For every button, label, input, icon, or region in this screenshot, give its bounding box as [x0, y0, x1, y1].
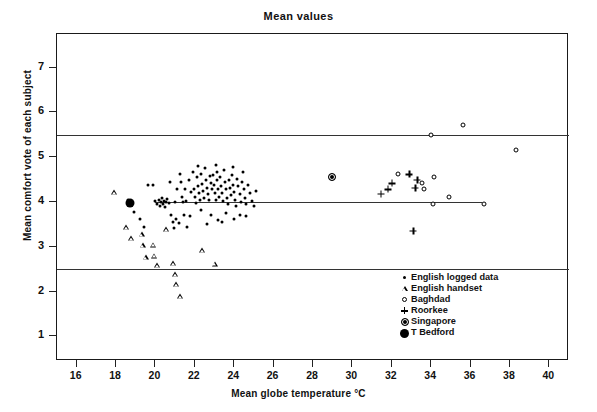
legend-item[interactable]: Singapore	[398, 316, 498, 327]
data-point-english-logged-data	[214, 198, 217, 201]
data-point-english-handset	[123, 225, 129, 230]
data-point-english-logged-data	[250, 200, 253, 203]
data-point-english-logged-data	[219, 176, 222, 179]
y-axis-tick-label: 1	[22, 328, 44, 340]
data-point-english-logged-data	[185, 225, 188, 228]
x-axis-tick-label: 38	[494, 369, 524, 381]
x-axis-tick-label: 36	[455, 369, 485, 381]
data-point-english-logged-data	[183, 213, 186, 216]
data-point-english-logged-data	[172, 221, 175, 224]
y-axis-tick	[49, 111, 56, 112]
y-axis-tick-label: 5	[22, 149, 44, 161]
data-point-english-logged-data	[239, 192, 242, 195]
data-point-english-handset	[143, 255, 149, 260]
x-axis-tick	[351, 360, 352, 367]
data-point-english-logged-data	[223, 168, 226, 171]
x-axis-tick-label: 28	[297, 369, 327, 381]
data-point-english-logged-data	[178, 222, 181, 225]
data-point-english-logged-data	[243, 188, 246, 191]
data-point-english-logged-data	[218, 195, 221, 198]
data-point-baghdad	[513, 148, 518, 153]
data-point-english-handset	[173, 282, 179, 287]
data-point-english-logged-data	[240, 200, 243, 203]
x-axis-tick	[76, 360, 77, 367]
legend-item[interactable]: T Bedford	[398, 327, 498, 338]
legend-item[interactable]: Roorkee	[398, 305, 498, 316]
legend-marker-icon	[398, 276, 411, 279]
x-axis-tick	[312, 360, 313, 367]
legend-item[interactable]: Baghdad	[398, 294, 498, 305]
data-point-english-logged-data	[184, 187, 187, 190]
data-point-english-logged-data	[199, 209, 202, 212]
legend: English logged dataEnglish handsetBaghda…	[398, 272, 498, 339]
data-point-english-logged-data	[233, 218, 236, 221]
data-point-baghdad	[429, 132, 434, 137]
data-point-english-logged-data	[193, 195, 196, 198]
data-point-english-logged-data	[214, 164, 217, 167]
data-point-roorkee	[384, 186, 391, 193]
data-point-english-logged-data	[232, 166, 235, 169]
data-point-english-logged-data	[230, 194, 233, 197]
y-axis-tick	[49, 246, 56, 247]
y-axis-tick-label: 3	[22, 239, 44, 251]
x-axis-tick-label: 40	[533, 369, 563, 381]
data-point-english-handset	[212, 261, 218, 266]
x-axis-tick-label: 16	[61, 369, 91, 381]
data-point-english-logged-data	[207, 198, 210, 201]
data-point-baghdad	[460, 122, 465, 127]
data-point-english-logged-data	[224, 180, 227, 183]
legend-label: T Bedford	[411, 327, 454, 338]
data-point-english-logged-data	[232, 183, 235, 186]
data-point-singapore	[328, 173, 336, 181]
data-point-baghdad	[422, 187, 427, 192]
legend-item[interactable]: English logged data	[398, 272, 498, 283]
legend-label: English handset	[411, 283, 482, 294]
band-separator-line	[57, 269, 569, 270]
data-point-english-logged-data	[212, 183, 215, 186]
data-point-english-logged-data	[192, 187, 195, 190]
x-axis-tick	[470, 360, 471, 367]
legend-marker-icon	[398, 307, 411, 314]
x-axis-tick-label: 30	[336, 369, 366, 381]
data-point-english-logged-data	[151, 183, 154, 186]
data-point-english-handset	[128, 235, 134, 240]
data-point-english-logged-data	[237, 185, 240, 188]
data-point-english-logged-data	[138, 218, 141, 221]
data-point-english-logged-data	[233, 191, 236, 194]
data-point-english-logged-data	[170, 213, 173, 216]
data-point-roorkee	[406, 171, 413, 178]
legend-item[interactable]: English handset	[398, 283, 498, 294]
data-point-english-logged-data	[245, 215, 248, 218]
data-point-english-logged-data	[222, 200, 225, 203]
x-axis-tick	[509, 360, 510, 367]
data-point-english-logged-data	[146, 183, 149, 186]
y-axis-tick-label: 6	[22, 104, 44, 116]
data-point-english-handset	[163, 227, 169, 232]
data-point-english-logged-data	[252, 205, 255, 208]
data-point-english-logged-data	[206, 192, 209, 195]
data-point-english-logged-data	[142, 225, 145, 228]
data-point-english-logged-data	[225, 188, 228, 191]
chart-title: Mean values	[0, 10, 597, 22]
data-point-baghdad	[446, 194, 451, 199]
data-point-english-handset	[177, 294, 183, 299]
data-point-baghdad	[395, 172, 400, 177]
data-point-english-logged-data	[248, 192, 251, 195]
data-point-english-logged-data	[234, 198, 237, 201]
y-axis-tick	[49, 201, 56, 202]
data-point-english-logged-data	[189, 191, 192, 194]
data-point-english-logged-data	[179, 173, 182, 176]
data-point-english-logged-data	[169, 180, 172, 183]
data-point-english-logged-data	[181, 195, 184, 198]
x-axis-tick-label: 34	[415, 369, 445, 381]
data-point-english-logged-data	[198, 198, 201, 201]
data-point-english-handset	[170, 261, 176, 266]
data-point-english-logged-data	[200, 183, 203, 186]
data-point-english-logged-data	[235, 205, 238, 208]
x-axis-title: Mean globe temperature °C	[0, 388, 597, 399]
data-point-english-logged-data	[228, 178, 231, 181]
data-point-english-logged-data	[188, 215, 191, 218]
y-axis-tick	[49, 67, 56, 68]
data-point-english-logged-data	[231, 174, 234, 177]
data-point-english-handset	[154, 263, 160, 268]
